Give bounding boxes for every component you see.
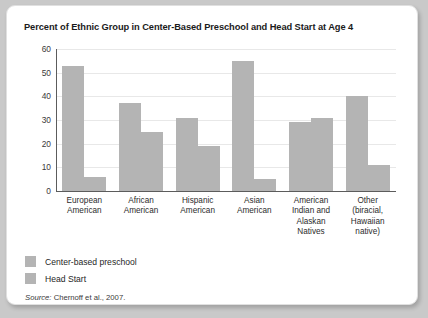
chart-card: Percent of Ethnic Group in Center-Based … xyxy=(6,5,418,305)
bar-group xyxy=(346,49,390,191)
source-text: Chernoff et al., 2007. xyxy=(54,293,126,302)
legend-label: Center-based preschool xyxy=(45,257,137,267)
y-axis-tick-label: 20 xyxy=(19,139,51,149)
bar xyxy=(141,132,163,191)
source-note: Source: Chernoff et al., 2007. xyxy=(25,293,125,302)
bar xyxy=(176,118,198,191)
legend-swatch-center-based-preschool xyxy=(25,256,36,267)
y-axis-line xyxy=(56,49,57,191)
y-axis-tick-label: 30 xyxy=(19,115,51,125)
bar xyxy=(254,179,276,191)
chart-title: Percent of Ethnic Group in Center-Based … xyxy=(24,22,409,33)
bar-group xyxy=(119,49,163,191)
bar xyxy=(119,103,141,191)
legend-item: Head Start xyxy=(25,270,137,287)
legend-label: Head Start xyxy=(45,274,86,284)
chart-legend: Center-based preschool Head Start xyxy=(25,253,137,287)
y-axis-tick-label: 40 xyxy=(19,91,51,101)
bar xyxy=(368,165,390,191)
bar xyxy=(289,122,311,191)
bar-group xyxy=(289,49,333,191)
y-axis-tick-label: 10 xyxy=(19,162,51,172)
legend-item: Center-based preschool xyxy=(25,253,137,270)
source-label: Source: xyxy=(25,293,52,302)
plot-area: 0102030405060 EuropeanAmericanAfricanAme… xyxy=(56,49,396,191)
bar-group xyxy=(176,49,220,191)
y-axis-tick-label: 50 xyxy=(19,68,51,78)
bar xyxy=(198,146,220,191)
bar-group xyxy=(232,49,276,191)
bar xyxy=(232,61,254,191)
bar xyxy=(346,96,368,191)
bar xyxy=(84,177,106,191)
x-axis-line xyxy=(56,191,396,192)
bar xyxy=(62,66,84,191)
legend-swatch-head-start xyxy=(25,273,36,284)
bar-group xyxy=(62,49,106,191)
bar xyxy=(311,118,333,191)
y-axis-tick-label: 60 xyxy=(19,44,51,54)
x-axis-label: Other(biracial,Hawaiiannative) xyxy=(325,196,411,238)
y-axis-tick-label: 0 xyxy=(19,186,51,196)
